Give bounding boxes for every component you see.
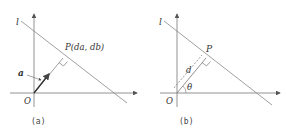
diagram-figure: l P(da, db) a O (a) l P d θ O (b) — [0, 0, 286, 135]
origin-label: O — [24, 96, 31, 106]
origin-label: O — [166, 96, 173, 106]
panel-b: l P d θ O (b) — [159, 14, 280, 126]
point-label: P — [205, 44, 213, 54]
caption-a: (a) — [31, 117, 45, 126]
vector-label: a — [18, 68, 24, 78]
distance-label: d — [186, 65, 192, 75]
right-angle-marker — [202, 62, 211, 67]
line-label: l — [159, 17, 162, 27]
line-l — [21, 21, 127, 103]
right-angle-marker — [59, 62, 68, 67]
panel-a: l P(da, db) a O (a) — [10, 14, 137, 126]
caption-b: (b) — [179, 117, 193, 126]
line-l — [164, 21, 272, 105]
angle-label: θ — [187, 82, 192, 92]
point-label: P(da, db) — [64, 42, 104, 52]
angle-arc — [183, 86, 186, 93]
unit-vector-a — [34, 74, 49, 93]
line-label: l — [16, 17, 19, 27]
